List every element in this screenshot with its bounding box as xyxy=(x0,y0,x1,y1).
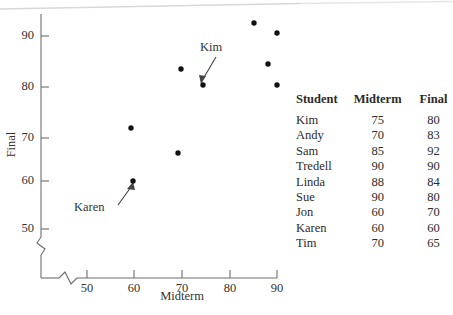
column-header-midterm: Midterm xyxy=(354,92,420,113)
data-point xyxy=(274,82,279,87)
cell-final: 90 xyxy=(420,159,448,174)
table-row: Sue 90 80 xyxy=(296,190,447,205)
table-row: Jon 60 70 xyxy=(296,205,447,220)
data-point xyxy=(274,30,279,35)
cell-student: Kim xyxy=(296,113,354,128)
annotation-karen: Karen xyxy=(74,200,105,215)
annotation-kim: Kim xyxy=(200,40,222,55)
cell-student: Sue xyxy=(296,190,354,205)
figure-page: 90 80 70 60 50 50 60 70 80 90 Final Midt… xyxy=(0,0,453,315)
cell-student: Andy xyxy=(296,128,354,143)
cell-midterm: 60 xyxy=(354,205,420,220)
table-row: Karen 60 60 xyxy=(296,221,447,236)
scatter-plot: 90 80 70 60 50 50 60 70 80 90 Final Midt… xyxy=(0,0,300,315)
cell-student: Tim xyxy=(296,236,354,251)
x-tick-label-90: 90 xyxy=(262,281,292,296)
y-tick-label-50: 50 xyxy=(8,221,34,236)
data-point xyxy=(178,66,183,71)
cell-midterm: 90 xyxy=(354,190,420,205)
y-tick-label-90: 90 xyxy=(8,28,34,43)
cell-student: Karen xyxy=(296,221,354,236)
column-header-final: Final xyxy=(420,92,448,113)
y-tick-label-60: 60 xyxy=(8,173,34,188)
x-tick-label-50: 50 xyxy=(72,281,102,296)
cell-final: 80 xyxy=(420,113,448,128)
data-point xyxy=(175,150,180,155)
cell-midterm: 70 xyxy=(354,128,420,143)
cell-final: 70 xyxy=(420,205,448,220)
data-point xyxy=(251,20,256,25)
cell-midterm: 85 xyxy=(354,144,420,159)
table-row: Sam 85 92 xyxy=(296,144,447,159)
cell-midterm: 88 xyxy=(354,175,420,190)
cell-midterm: 60 xyxy=(354,221,420,236)
cell-student: Sam xyxy=(296,144,354,159)
karen-leader-line xyxy=(118,187,131,205)
cell-midterm: 90 xyxy=(354,159,420,174)
cell-final: 60 xyxy=(420,221,448,236)
cell-final: 65 xyxy=(420,236,448,251)
cell-final: 92 xyxy=(420,144,448,159)
data-point xyxy=(200,82,205,87)
cell-final: 84 xyxy=(420,175,448,190)
kim-leader-line xyxy=(203,57,216,79)
table-row: Andy 70 83 xyxy=(296,128,447,143)
y-tick-label-80: 80 xyxy=(8,79,34,94)
cell-final: 83 xyxy=(420,128,448,143)
cell-final: 80 xyxy=(420,190,448,205)
y-axis-break-mark xyxy=(37,237,45,255)
data-point xyxy=(128,125,133,130)
scatter-plot-canvas xyxy=(0,0,300,315)
data-point xyxy=(265,61,270,66)
column-header-student: Student xyxy=(296,92,354,113)
cell-student: Tredell xyxy=(296,159,354,174)
cell-midterm: 75 xyxy=(354,113,420,128)
x-axis-title: Midterm xyxy=(142,289,222,304)
y-axis-title: Final xyxy=(4,117,19,173)
cell-midterm: 70 xyxy=(354,236,420,251)
data-point xyxy=(130,178,135,183)
student-scores-table: Student Midterm Final Kim 75 80 Andy 70 … xyxy=(296,92,447,252)
table-header-row: Student Midterm Final xyxy=(296,92,447,113)
table-row: Kim 75 80 xyxy=(296,113,447,128)
table-row: Tim 70 65 xyxy=(296,236,447,251)
cell-student: Linda xyxy=(296,175,354,190)
table-row: Tredell 90 90 xyxy=(296,159,447,174)
cell-student: Jon xyxy=(296,205,354,220)
table-row: Linda 88 84 xyxy=(296,175,447,190)
